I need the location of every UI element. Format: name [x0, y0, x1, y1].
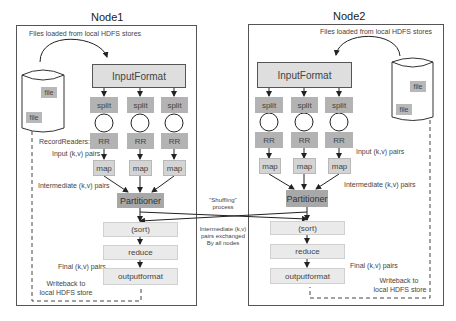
- node2-outputformat: outputformat: [270, 268, 345, 284]
- node1-map-2: map: [129, 160, 152, 176]
- node1-rr-2: RR: [127, 133, 154, 149]
- node1-map-3: map: [163, 160, 186, 176]
- node1-intermediate-pairs-label: Intermediate (k,v) pairs: [38, 182, 110, 190]
- node2-map-3: map: [328, 158, 351, 174]
- node1-input-pairs-label: Input (k,v) pairs: [52, 150, 100, 158]
- node2-writeback-label-1: Writeback to: [370, 277, 428, 285]
- node2-split-2: split: [291, 97, 318, 113]
- node2-map-1: map: [259, 158, 281, 174]
- node1-split-2: split: [127, 97, 154, 113]
- node2-file-2: file: [396, 104, 412, 115]
- node2-rr-1: RR: [255, 132, 283, 148]
- node2-input-pairs-label: Input (k,v) pairs: [356, 148, 404, 156]
- node1-inputformat: InputFormat: [92, 64, 186, 88]
- node2-intermediate-pairs-label: Intermediate (k,v) pairs: [344, 181, 416, 189]
- node1-map-1: map: [93, 160, 115, 176]
- node1-file-2: file: [26, 112, 42, 123]
- node1-writeback-label-1: Writeback to: [40, 280, 92, 288]
- node1-rr-3: RR: [161, 133, 188, 149]
- node2-files-loaded-label: Files loaded from local HDFS stores: [320, 28, 432, 36]
- node1-sort: (sort): [103, 222, 178, 237]
- node2-writeback-label-2: local HDFS store: [370, 286, 430, 294]
- node1-title: Node1: [91, 11, 123, 23]
- shuffle-label-top2: process: [196, 203, 250, 211]
- shuffle-label-bottom3: By all nodes: [196, 239, 250, 247]
- diagram-lines: [0, 0, 456, 321]
- node2-partitioner: Partitioner: [286, 190, 328, 207]
- node2-reduce: reduce: [270, 244, 345, 259]
- node2-rr-2: RR: [291, 132, 318, 148]
- node1-split-3: split: [161, 97, 188, 113]
- node1-files-loaded-label: Files loaded from local HDFS stores: [29, 30, 141, 38]
- node1-outputformat: outputformat: [103, 268, 178, 285]
- node2-file-1: file: [410, 81, 426, 92]
- node1-split-1: split: [90, 97, 118, 113]
- node2-inputformat: InputFormat: [257, 62, 352, 88]
- node2-title: Node2: [333, 10, 365, 22]
- node2-map-2: map: [293, 158, 316, 174]
- node1-partitioner: Partitioner: [117, 193, 164, 208]
- node2-split-1: split: [255, 97, 283, 113]
- node2-rr-3: RR: [325, 132, 353, 148]
- node1-writeback-label-2: local HDFS store: [38, 289, 94, 297]
- node2-sort: (sort): [270, 221, 345, 235]
- node1-rr-1: RR: [90, 133, 118, 149]
- node2-split-3: split: [325, 97, 353, 113]
- node1-reduce: reduce: [103, 245, 178, 260]
- node2-final-pairs-label: Final (k,v) pairs: [350, 262, 398, 270]
- node1-recordreaders-label: RecordReaders:: [39, 138, 90, 146]
- node1-file-1: file: [41, 87, 57, 98]
- node1-final-pairs-label: Final (k,v) pairs: [58, 263, 106, 271]
